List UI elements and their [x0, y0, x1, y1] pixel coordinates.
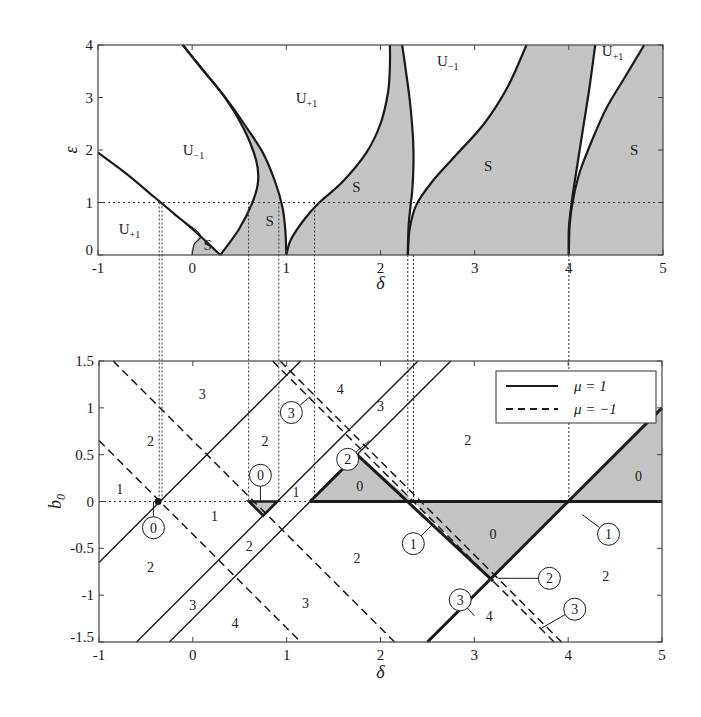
count-label: 2: [354, 551, 361, 566]
y-tick-label: 0: [86, 242, 94, 258]
count-label: 0: [635, 469, 642, 484]
y-tick-label: 1.5: [75, 353, 94, 369]
x-tick-label: 1: [283, 260, 291, 276]
y-tick-label: 4: [86, 37, 94, 53]
count-label: 1: [116, 482, 123, 497]
x-axis-label: δ: [376, 662, 385, 682]
region-label-main: S: [484, 158, 492, 174]
region-label: U−1: [437, 53, 458, 72]
x-tick-label: 2: [377, 647, 385, 663]
stable-region-group: [173, 45, 663, 255]
annotation-number: 2: [344, 452, 351, 467]
region-label: U+1: [296, 90, 317, 109]
zero-count-regions: [249, 408, 662, 578]
region-label-main: S: [352, 179, 360, 195]
x-tick-label: 3: [471, 260, 479, 276]
circled-annotation: 3: [280, 397, 310, 424]
annotation-number: 3: [571, 602, 578, 617]
count-label: 2: [464, 433, 471, 448]
region-label-main: U: [602, 43, 613, 59]
region-label-main: U: [296, 90, 307, 106]
count-diagram-b0: -1012345-1.5-1-0.500.511.5 3211221234343…: [45, 353, 666, 682]
region-label: U+1: [119, 221, 140, 240]
region-label: S: [266, 213, 274, 229]
count-label: 3: [377, 399, 384, 414]
annotation-number: 3: [288, 406, 295, 421]
annotation-leader-line: [542, 615, 565, 628]
region-label: S: [484, 158, 492, 174]
y-tick-label: -1.5: [70, 629, 94, 645]
y-tick-label: 0.5: [75, 447, 94, 463]
region-label-main: U: [119, 221, 130, 237]
region-label-sub: +1: [613, 51, 624, 62]
region-label-main: S: [630, 142, 638, 158]
count-label: 1: [211, 509, 218, 524]
annotation-number: 1: [410, 537, 417, 552]
count-label: 2: [147, 560, 154, 575]
region-label-main: U: [183, 142, 194, 158]
x-tick-label: 5: [659, 260, 667, 276]
circled-annotation: 3: [449, 589, 474, 616]
region-label-main: S: [203, 237, 211, 253]
y-tick-label: -0.5: [70, 540, 94, 556]
count-label: 4: [232, 616, 239, 631]
region-label-sub: −1: [448, 61, 459, 72]
circled-annotation: 0: [249, 464, 271, 501]
count-label: 2: [246, 539, 253, 554]
legend-label-mu-minus-1: μ = −1: [573, 401, 617, 417]
x-tick-label: 5: [658, 647, 666, 663]
circled-annotation: 0: [142, 502, 164, 539]
x-tick-label: 4: [564, 647, 572, 663]
annotation-leader-line: [468, 608, 475, 616]
count-label: 1: [293, 485, 300, 500]
region-label-sub: −1: [194, 150, 205, 161]
count-label: 2: [262, 434, 269, 449]
circled-annotation: 1: [402, 525, 432, 555]
stable-region-S-right: [408, 45, 595, 255]
region-label: U−1: [183, 142, 204, 161]
y-tick-label: -1: [82, 587, 95, 603]
annotation-leader-line: [421, 525, 432, 536]
annotation-number: 0: [150, 521, 157, 536]
crossing-point-marker: [155, 498, 162, 505]
annotation-number: 1: [605, 527, 612, 542]
circled-annotation: 2: [498, 567, 561, 589]
annotation-leader-line: [300, 397, 310, 406]
x-axis-label: δ: [376, 273, 385, 293]
y-tick-label: 1: [86, 195, 94, 211]
annotation-number: 2: [546, 571, 553, 586]
count-label: 2: [602, 569, 609, 584]
legend-label-mu-1: μ = 1: [573, 378, 607, 394]
legend: μ = 1 μ = −1: [496, 371, 656, 423]
stability-diagram-epsilon: -101234501234 U+1U−1SU+1SSU−1SU+1S δ ε: [61, 37, 667, 293]
region-label: S: [352, 179, 360, 195]
count-label: 0: [490, 527, 497, 542]
x-tick-label: -1: [93, 647, 106, 663]
count-label: 3: [189, 598, 196, 613]
region-label-sub: +1: [130, 229, 141, 240]
circled-annotation: 3: [542, 598, 586, 628]
x-tick-label: 1: [283, 647, 291, 663]
x-tick-label: -1: [92, 260, 105, 276]
region-label: S: [203, 237, 211, 253]
count-label: 2: [147, 434, 154, 449]
x-tick-label: 0: [188, 260, 196, 276]
y-axis-label-sub: 0: [54, 494, 68, 500]
y-tick-label: 1: [87, 400, 95, 416]
y-axis-label: ε: [61, 146, 81, 154]
stable-region-S-center: [286, 45, 413, 255]
y-axis-label: b0: [45, 494, 68, 509]
zero-region-triangle-small: [249, 502, 277, 516]
circled-annotation: 1: [582, 515, 619, 546]
count-label: 0: [356, 479, 363, 494]
y-axis-label-main: b: [45, 500, 65, 509]
annotation-number: 3: [457, 593, 464, 608]
x-tick-label: 3: [471, 647, 479, 663]
annotation-leader-line: [582, 515, 599, 528]
count-label: 3: [302, 596, 309, 611]
region-label: S: [630, 142, 638, 158]
region-label-main: S: [266, 213, 274, 229]
count-label: 3: [199, 387, 206, 402]
annotation-number: 0: [257, 468, 264, 483]
stable-region-S-mid: [220, 98, 286, 256]
